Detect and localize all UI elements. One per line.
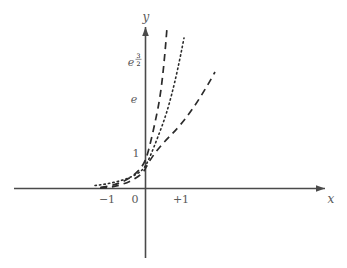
x-tick-label-zero: 0 — [132, 193, 139, 206]
coordinate-plot-svg: x y −1 0 +1 1 e e 3 2 — [0, 0, 347, 268]
x-tick-label-minus-1: −1 — [99, 193, 115, 206]
y-axis-label: y — [142, 10, 150, 24]
plot-background — [0, 0, 347, 268]
y-level-label-one: 1 — [133, 147, 140, 160]
x-axis-label: x — [328, 192, 335, 206]
y-level-exponent-numerator: 3 — [137, 52, 141, 59]
plot-figure: x y −1 0 +1 1 e e 3 2 — [0, 0, 347, 268]
y-level-label-e-base: e — [128, 56, 135, 69]
x-tick-label-plus-1: +1 — [173, 193, 189, 206]
y-level-label-e: e — [131, 93, 138, 106]
y-level-exponent-denominator: 2 — [137, 60, 141, 67]
